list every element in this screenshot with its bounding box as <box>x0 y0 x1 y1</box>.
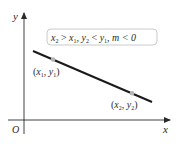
condition-text: x2 > x1, y2 < y1, m < 0 <box>50 32 136 44</box>
y-axis-label: y <box>12 10 18 22</box>
point-2-label: (x2, y2) <box>111 99 138 111</box>
x-axis-label: x <box>162 123 168 135</box>
point-1-label: (x1, y1) <box>33 66 60 78</box>
point-2-marker <box>130 91 135 96</box>
point-1-marker <box>51 57 56 62</box>
origin-label: O <box>12 124 19 135</box>
line-slope-diagram: y x O x2 > x1, y2 < y1, m < 0 (x1, y1) (… <box>0 0 177 144</box>
